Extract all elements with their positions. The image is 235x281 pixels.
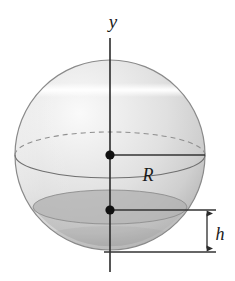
y-axis-label: y	[107, 11, 118, 32]
height-label-h: h	[216, 224, 225, 244]
diagram-canvas: y R h	[0, 0, 235, 281]
radius-label-R: R	[142, 165, 154, 185]
center-point-dot	[105, 150, 114, 159]
sphere-diagram-figure: y R h	[0, 0, 235, 281]
cap-center-point-dot	[105, 205, 114, 214]
